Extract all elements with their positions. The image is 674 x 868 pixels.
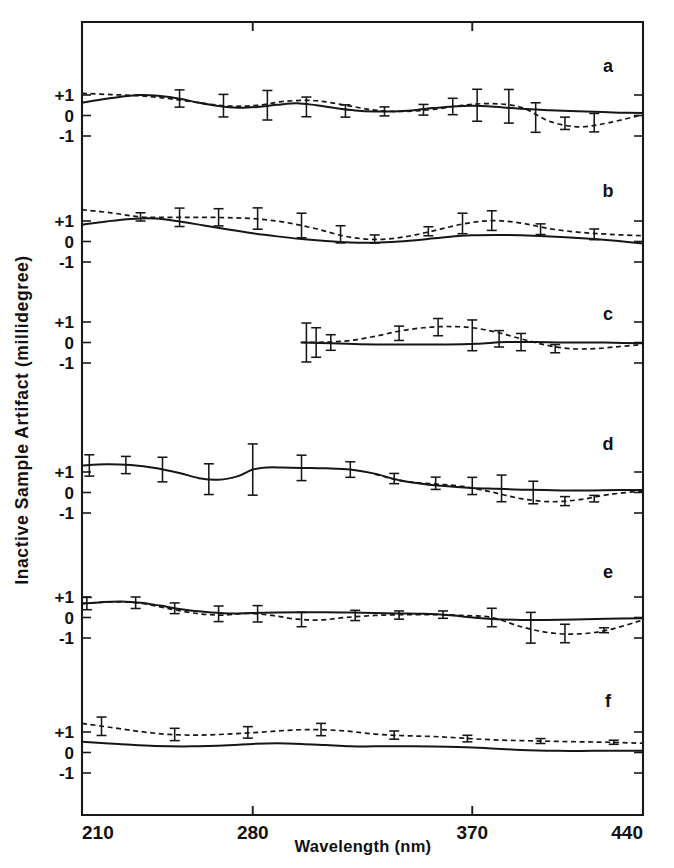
y-tick-label: +1	[55, 588, 74, 607]
y-tick-label: 0	[65, 484, 74, 503]
y-tick-label: +1	[55, 313, 74, 332]
x-axis-label: Wavelength (nm)	[295, 837, 432, 855]
y-tick-label: +1	[55, 86, 74, 105]
curve-b-dashed	[82, 210, 643, 240]
y-tick-label: -1	[59, 629, 74, 648]
error-bar	[336, 226, 346, 243]
y-tick-label: +1	[55, 723, 74, 742]
curve-a-solid	[82, 95, 643, 113]
y-tick-label: -1	[59, 764, 74, 783]
y-tick-label: +1	[55, 212, 74, 231]
error-bar	[599, 628, 609, 633]
x-tick-label: 210	[82, 822, 114, 843]
error-bars	[82, 89, 619, 744]
error-bar	[531, 103, 541, 133]
y-tick-label: 0	[65, 107, 74, 126]
error-bar	[97, 717, 107, 735]
x-axis-ticks	[82, 22, 643, 815]
error-bar	[467, 477, 477, 494]
y-tick-label: -1	[59, 504, 74, 523]
data-curves	[82, 93, 643, 751]
y-tick-label: 0	[65, 334, 74, 353]
y-tick-label: -1	[59, 127, 74, 146]
curve-b-solid	[82, 218, 643, 243]
y-tick-label: 0	[65, 744, 74, 763]
curve-f-solid	[82, 742, 643, 751]
error-bar	[394, 326, 404, 340]
y-tick-label: 0	[65, 609, 74, 628]
plot-frame	[82, 22, 643, 815]
error-bar	[243, 727, 253, 738]
panel-label-d: d	[603, 434, 614, 454]
error-bar	[467, 320, 477, 351]
y-tick-label: -1	[59, 354, 74, 373]
y-tick-label: +1	[55, 463, 74, 482]
error-bar	[431, 477, 441, 489]
spectra-chart: abcdef +10-1+10-1+10-1+10-1+10-1+10-1 21…	[0, 0, 674, 868]
y-axis-ticks	[82, 95, 643, 773]
panel-label-a: a	[603, 56, 614, 76]
panel-label-e: e	[603, 562, 613, 582]
error-bar	[301, 97, 311, 117]
y-axis-label: Inactive Sample Artifact (millidegree)	[12, 255, 32, 584]
y-tick-label: 0	[65, 233, 74, 252]
error-bar	[504, 89, 514, 123]
x-tick-label: 440	[611, 822, 643, 843]
x-tick-label: 370	[456, 822, 488, 843]
curve-d-solid	[82, 464, 643, 490]
y-tick-label: -1	[59, 253, 74, 272]
error-bar	[589, 113, 599, 131]
curve-d-dashed	[375, 474, 643, 502]
y-tick-labels: +10-1+10-1+10-1+10-1+10-1+10-1	[55, 86, 74, 783]
panel-label-f: f	[605, 691, 612, 711]
x-tick-label: 280	[237, 822, 269, 843]
error-bar	[175, 208, 185, 226]
curve-e-solid	[82, 601, 643, 620]
panel-letters: abcdef	[603, 56, 614, 711]
figure-container: abcdef +10-1+10-1+10-1+10-1+10-1+10-1 21…	[0, 0, 674, 868]
error-bar	[560, 117, 570, 129]
curve-f-dashed	[82, 723, 643, 743]
panel-label-b: b	[603, 181, 614, 201]
panel-label-c: c	[603, 304, 613, 324]
